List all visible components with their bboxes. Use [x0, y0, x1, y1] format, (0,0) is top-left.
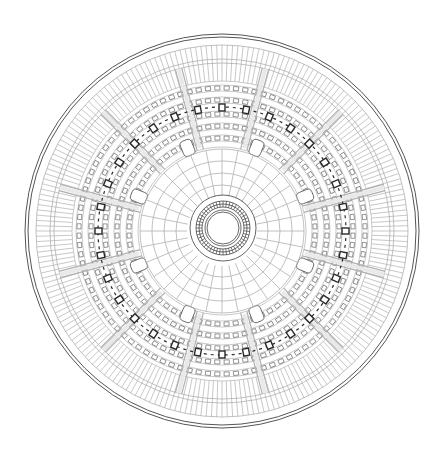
field-radial — [191, 263, 209, 306]
structural-column — [97, 203, 105, 210]
seat-block — [116, 242, 121, 248]
seat-block — [348, 251, 353, 257]
seat-block — [128, 215, 133, 221]
seat-block — [224, 346, 229, 350]
rib-line — [47, 168, 81, 180]
core-tick — [241, 215, 246, 218]
seat-block — [89, 242, 94, 248]
structural-column — [242, 106, 249, 114]
rib-line — [78, 326, 106, 349]
core-tick — [196, 231, 202, 232]
seat-block — [196, 343, 202, 348]
seat-block — [103, 224, 107, 229]
seat-block — [178, 353, 184, 358]
core-ring — [207, 212, 239, 244]
seat-block — [325, 224, 329, 229]
seat-block — [325, 233, 329, 238]
rib-line — [317, 87, 340, 115]
seat-block — [348, 205, 353, 211]
rib-line — [338, 113, 366, 136]
seat-block — [336, 215, 341, 220]
structural-column — [342, 228, 349, 234]
rib-line — [63, 308, 94, 327]
field-radial — [254, 244, 297, 262]
seat-block — [242, 370, 248, 375]
seat-block — [312, 242, 317, 248]
rib-line — [363, 281, 397, 293]
seat-block — [344, 269, 349, 275]
vomitory — [295, 188, 314, 205]
vomitory — [129, 188, 148, 205]
structural-column — [171, 341, 179, 350]
rib-line — [350, 308, 381, 327]
vomitory — [179, 138, 196, 157]
core-tick — [240, 212, 245, 216]
seat-block — [89, 233, 93, 238]
rib-line — [365, 277, 399, 288]
seat-block — [269, 94, 275, 100]
core-tick — [234, 246, 237, 251]
field-radial — [191, 155, 209, 198]
seat-block — [312, 215, 317, 221]
seat-block — [215, 86, 220, 90]
seat-block — [224, 334, 229, 338]
rib-line — [104, 87, 127, 115]
seat-block — [205, 98, 211, 103]
seat-block — [336, 242, 341, 247]
seat-block — [351, 233, 355, 238]
seat-block — [242, 114, 248, 119]
seat-block — [233, 86, 239, 90]
seat-block — [215, 98, 220, 102]
seat-block — [79, 251, 84, 257]
seat-block — [169, 94, 175, 100]
structural-column — [339, 251, 347, 258]
structural-column — [104, 180, 113, 188]
seat-block — [324, 215, 329, 221]
seat-block — [233, 359, 239, 364]
seat-block — [127, 233, 131, 238]
core-tick — [236, 207, 240, 212]
seat-block — [115, 233, 119, 238]
seat-block — [224, 124, 229, 128]
seat-block — [233, 345, 238, 350]
seat-block — [215, 136, 220, 140]
seat-block — [215, 334, 220, 338]
seat-block — [196, 357, 202, 362]
seat-block — [215, 322, 220, 326]
seat-block — [77, 224, 81, 229]
field-radial — [164, 256, 197, 289]
seat-block — [215, 360, 220, 364]
seat-block — [350, 242, 355, 248]
seat-block — [224, 136, 229, 140]
structural-column — [104, 274, 113, 282]
rib-line — [47, 281, 81, 293]
seat-block — [105, 251, 110, 257]
core-tick — [210, 246, 213, 251]
seat-block — [324, 242, 329, 248]
structural-column — [194, 348, 201, 356]
core-tick — [244, 231, 250, 232]
seat-block — [224, 322, 229, 326]
seat-block — [242, 88, 248, 93]
core-tick — [200, 239, 205, 242]
seat-block — [89, 224, 93, 229]
seat-block — [269, 362, 275, 368]
seat-block — [206, 333, 212, 338]
seat-block — [224, 86, 229, 90]
core-tick — [226, 201, 227, 207]
rib-line — [159, 56, 171, 90]
core-tick — [207, 207, 211, 212]
seat-block — [260, 353, 266, 358]
rib-line — [165, 374, 176, 408]
seat-block — [91, 251, 96, 257]
seat-block — [85, 178, 91, 184]
seat-block — [361, 251, 366, 257]
rib-line — [126, 72, 145, 103]
seat-block — [215, 124, 220, 128]
field-radial — [146, 244, 189, 262]
seat-block — [95, 187, 100, 193]
seat-block — [215, 372, 220, 376]
vomitory — [248, 138, 265, 157]
structural-column — [219, 351, 225, 358]
structural-column — [265, 341, 273, 350]
